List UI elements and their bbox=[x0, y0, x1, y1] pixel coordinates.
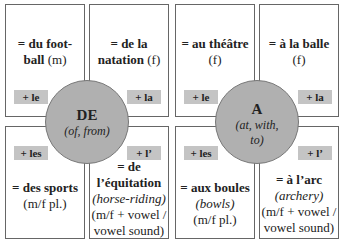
a-circle-title: A bbox=[216, 101, 298, 118]
a-tag-l: + l’ bbox=[298, 146, 332, 160]
a-top-left-text: = au théâtre (f) bbox=[175, 36, 255, 68]
a-bottom-right-line3: (m/f + vowel / bbox=[259, 204, 339, 220]
a-bottom-right-line4: vowel sound) bbox=[259, 220, 339, 236]
de-top-left-text: = du foot- ball (m) bbox=[5, 36, 85, 68]
de-top-right-line1: = de la bbox=[89, 36, 169, 52]
de-circle-title: DE bbox=[46, 107, 128, 124]
a-top-left-line1: = au théâtre bbox=[175, 36, 255, 52]
de-top-right-gender: (f) bbox=[144, 52, 160, 67]
de-top-left-line2: ball bbox=[24, 52, 45, 67]
a-circle-gloss2: to) bbox=[216, 133, 298, 148]
de-bottom-right-text: = de l’équitation (horse-riding) (m/f + … bbox=[89, 159, 169, 239]
a-bottom-right-text: = à l’arc (archery) (m/f + vowel / vowel… bbox=[259, 172, 339, 236]
a-top-right-line2: (f) bbox=[259, 52, 339, 68]
a-tag-la: + la bbox=[298, 90, 332, 104]
de-circle-gloss: (of, from) bbox=[46, 124, 128, 139]
a-tag-le: + le bbox=[184, 90, 218, 104]
de-bottom-left-line1: = des sports bbox=[5, 180, 85, 196]
de-top-left-line1: = du foot- bbox=[5, 36, 85, 52]
de-tag-la: + la bbox=[127, 90, 161, 104]
de-bottom-right-line2: l’équitation bbox=[89, 175, 169, 191]
de-top-right-text: = de la natation (f) bbox=[89, 36, 169, 68]
a-circle: A (at, with, to) bbox=[215, 80, 299, 164]
a-bottom-left-line2: (bowls) bbox=[175, 196, 255, 212]
a-top-right-line1: = à la balle bbox=[259, 36, 339, 52]
a-bottom-left-line1: = aux boules bbox=[175, 180, 255, 196]
a-circle-gloss1: (at, with, bbox=[216, 118, 298, 133]
de-bottom-right-line5: vowel sound) bbox=[89, 223, 169, 239]
a-top-left-line2: (f) bbox=[175, 52, 255, 68]
de-top-left-gender: (m) bbox=[44, 52, 66, 67]
de-bottom-right-line3: (horse-riding) bbox=[89, 191, 169, 207]
a-top-right-text: = à la balle (f) bbox=[259, 36, 339, 68]
a-bottom-right-line2: (archery) bbox=[259, 188, 339, 204]
de-circle: DE (of, from) bbox=[45, 80, 129, 164]
de-bottom-left-line2: (m/f pl.) bbox=[5, 196, 85, 212]
de-bottom-left-text: = des sports (m/f pl.) bbox=[5, 180, 85, 212]
a-bottom-left-text: = aux boules (bowls) (m/f pl.) bbox=[175, 180, 255, 228]
a-bottom-left-line3: (m/f pl.) bbox=[175, 212, 255, 228]
a-tag-les: + les bbox=[184, 146, 218, 160]
a-bottom-right-line1: = à l’arc bbox=[259, 172, 339, 188]
de-tag-le: + le bbox=[14, 90, 48, 104]
de-tag-l: + l’ bbox=[127, 146, 161, 160]
de-top-right-line2: natation bbox=[98, 52, 144, 67]
de-bottom-right-line4: (m/f + vowel / bbox=[89, 207, 169, 223]
de-tag-les: + les bbox=[14, 146, 48, 160]
